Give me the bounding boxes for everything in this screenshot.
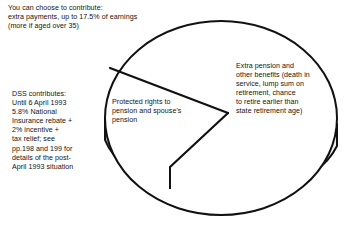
slice-label-extra-pension: Extra pension and other benefits (death … xyxy=(236,62,310,117)
slice-label-protected-rights: Protected rights to pension and spouse's… xyxy=(112,98,181,125)
figure-canvas: You can choose to contribute: extra paym… xyxy=(0,0,356,240)
dss-contribution-note: DSS contributes: Until 6 April 1993 5.8%… xyxy=(12,90,73,172)
top-contribution-note: You can choose to contribute: extra paym… xyxy=(8,4,137,31)
